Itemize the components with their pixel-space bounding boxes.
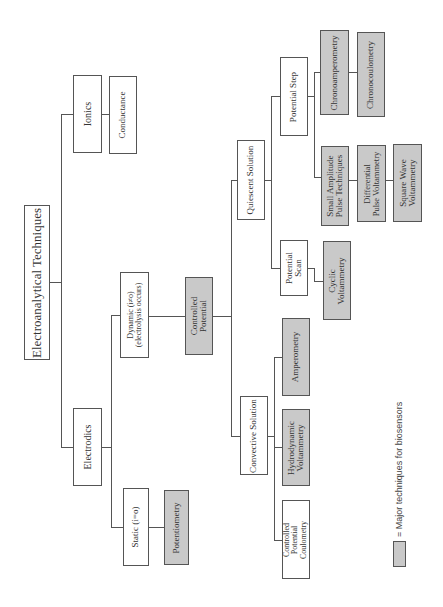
node-differential-pulse: Differential Pulse Voltammetry	[357, 145, 386, 222]
node-label: Static (i=o)	[131, 507, 140, 548]
connector-dynamic	[111, 315, 120, 316]
connector-cp-trunk	[231, 180, 232, 436]
node-electroanalytical-techniques: Electroanalytical Techniques	[24, 205, 50, 360]
connector-root	[50, 282, 61, 283]
connector-potential-step	[271, 96, 280, 97]
connector-electrodics	[61, 447, 73, 448]
connector-potentiometry	[149, 527, 164, 528]
node-label: Chronocoulometry	[366, 41, 375, 109]
node-chronoamperometry: Chronoamperometry	[320, 30, 349, 115]
connector-convective-out	[268, 436, 274, 437]
node-label: Electroanalytical Techniques	[30, 207, 44, 357]
node-label: Controlled Potential Coulometry	[283, 520, 308, 558]
node-label: Controlled Potential	[190, 297, 209, 336]
connector-ionics	[61, 114, 73, 115]
connector-step-trunk	[314, 72, 315, 177]
connector-controlled-potential	[149, 316, 185, 317]
connector-quiescent-trunk	[271, 96, 272, 268]
node-label: Electrodics	[82, 425, 93, 470]
connector-step-out	[308, 96, 314, 97]
node-label: Dynamic (i≠o) (electrolysis occurs)	[126, 283, 143, 348]
node-label: Potential Scan	[285, 252, 304, 284]
connector-cp-out	[213, 316, 231, 317]
connector-amperometry	[274, 357, 282, 358]
node-potentiometry: Potentiometry	[164, 490, 189, 565]
node-label: Potential Step	[289, 71, 298, 121]
node-cyclic-voltammetry: Cyclic Voltammetry	[323, 241, 351, 320]
node-hydrodynamic-voltammetry: Hydrodynamic Voltammetry	[282, 409, 310, 486]
node-label: Cyclic Voltammetry	[328, 257, 347, 304]
node-amperometry: Amperometry	[282, 318, 310, 396]
node-label: Potentiometry	[172, 502, 181, 553]
node-square-wave: Square Wave Voltammetry	[393, 144, 422, 222]
connector-quiescent-out	[265, 180, 271, 181]
node-static: Static (i=o)	[123, 488, 149, 566]
node-conductance: Conductance	[109, 76, 137, 154]
connector-small-amplitude	[314, 177, 321, 178]
node-potential-scan: Potential Scan	[280, 240, 308, 296]
connector-convective	[231, 436, 240, 437]
connector-hydrodynamic	[274, 447, 282, 448]
connector-square-wave	[386, 180, 393, 181]
connector-cp-coulometry	[274, 540, 282, 541]
node-ionics: Ionics	[73, 75, 102, 153]
connector-electrodics-trunk	[111, 315, 112, 527]
node-label: Amperometry	[291, 332, 300, 382]
connector-scan-trunk	[314, 268, 315, 281]
node-electrodics: Electrodics	[73, 408, 102, 486]
connector-scan-out	[308, 268, 314, 269]
node-label: Conductance	[118, 92, 127, 139]
connector-cyclic	[314, 281, 323, 282]
node-controlled-potential-coulometry: Controlled Potential Coulometry	[282, 500, 310, 579]
node-label: Hydrodynamic Voltammetry	[287, 421, 306, 475]
legend-text: = Major techniques for biosensors	[394, 402, 404, 537]
node-dynamic: Dynamic (i≠o) (electrolysis occurs)	[120, 272, 149, 358]
node-convective-solution: Convective Solution	[240, 396, 268, 475]
connector-electrodics-out	[102, 447, 111, 448]
connector-differential	[349, 180, 357, 181]
node-label: Square Wave Voltammetry	[398, 159, 417, 206]
node-label: Differential Pulse Voltammetry	[363, 151, 381, 216]
node-label: Chronoamperometry	[330, 35, 339, 110]
connector-conductance	[102, 114, 109, 115]
connector-root-trunk	[61, 114, 62, 447]
node-label: Quiescent Solution	[246, 146, 255, 215]
node-potential-step: Potential Step	[280, 57, 308, 136]
connector-static	[111, 527, 123, 528]
legend-swatch	[393, 541, 406, 567]
connector-potential-scan	[271, 268, 280, 269]
node-small-amplitude-pulse: Small Amplitude Pulse Techniques	[321, 146, 349, 226]
node-controlled-potential: Controlled Potential	[185, 277, 213, 355]
node-label: Ionics	[82, 102, 93, 126]
node-quiescent-solution: Quiescent Solution	[237, 140, 265, 220]
node-chronocoulometry: Chronocoulometry	[357, 32, 385, 117]
node-label: Small Amplitude Pulse Techniques	[326, 155, 345, 217]
node-label: Convective Solution	[249, 399, 258, 473]
connector-chronocoulometry	[349, 72, 357, 73]
connector-convective-trunk	[274, 357, 275, 540]
